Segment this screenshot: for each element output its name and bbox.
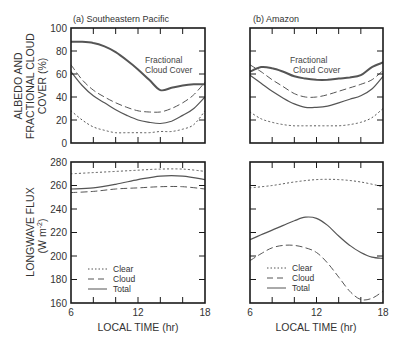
x-tick-label: 12 [132, 307, 144, 318]
panel-b-title: (b) Amazon [253, 14, 299, 24]
annotation-a-line1: Fractional [145, 55, 182, 65]
annotation-a: Fractional Cloud Cover [145, 55, 192, 75]
x-tick-label: 12 [311, 307, 323, 318]
series-total [71, 72, 205, 124]
top-ylabel-line2: FRACTIONAL CLOUD [24, 33, 36, 139]
panel-a-albedo: 020406080100 [50, 23, 205, 149]
x-tick-label: 6 [68, 307, 74, 318]
series-cloud [71, 186, 205, 192]
plot-frame [250, 162, 383, 303]
y-tick-label: 280 [50, 157, 67, 168]
series-clear [250, 109, 383, 126]
legend-total-label: Total [292, 283, 310, 293]
series-clear [250, 179, 383, 188]
y-tick-label: 160 [50, 298, 67, 309]
panel-a-title: (a) Southeastern Pacific [73, 14, 170, 24]
bottom-ylabel-line2: (W m-2) [36, 219, 48, 254]
top-ylabel-line3: COVER (%) [36, 58, 48, 115]
legend-clear-label: Clear [113, 264, 133, 274]
y-tick-label: 20 [56, 115, 68, 126]
legend-cloud-label: Cloud [292, 273, 314, 283]
panel-b-albedo [250, 28, 383, 143]
y-tick-label: 80 [56, 46, 68, 57]
top-ylabel-line1: ALBEDO AND [12, 52, 24, 120]
bottom-ylabel-line1: LONGWAVE FLUX [24, 187, 36, 276]
y-tick-label: 260 [50, 180, 67, 191]
x-tick-label: 18 [377, 307, 389, 318]
plot-frame [71, 162, 205, 303]
y-tick-label: 100 [50, 23, 67, 34]
series-clear [71, 169, 205, 174]
annotation-a-line2: Cloud Cover [145, 65, 192, 75]
x-axis-title-b: LOCAL TIME (hr) [275, 321, 356, 333]
annotation-b-line1: Fractional [290, 55, 327, 65]
y-tick-label: 0 [61, 138, 67, 149]
legend-a: Clear Cloud Total [88, 264, 135, 294]
y-tick-label: 60 [56, 69, 68, 80]
y-tick-label: 240 [50, 204, 67, 215]
plot-frame [250, 28, 383, 143]
panel-b-longwave: 61218 [247, 162, 389, 318]
bottom-y-axis-title: LONGWAVE FLUX (W m-2) [24, 187, 48, 276]
annotation-b-line2: Cloud Cover [293, 65, 340, 75]
y-tick-label: 200 [50, 251, 67, 262]
x-axis-title-a: LOCAL TIME (hr) [97, 321, 178, 333]
legend-clear-label: Clear [292, 263, 312, 273]
top-y-axis-title: ALBEDO AND FRACTIONAL CLOUD COVER (%) [12, 33, 48, 139]
legend-cloud-label: Cloud [113, 274, 135, 284]
figure: (a) Southeastern Pacific (b) Amazon ALBE… [0, 0, 401, 351]
y-tick-label: 220 [50, 227, 67, 238]
legend-total-label: Total [113, 284, 131, 294]
y-tick-label: 40 [56, 92, 68, 103]
y-tick-label: 180 [50, 274, 67, 285]
legend-b: Clear Cloud Total [267, 263, 314, 293]
x-tick-label: 6 [247, 307, 253, 318]
x-tick-label: 18 [199, 307, 211, 318]
annotation-b: Fractional Cloud Cover [290, 55, 340, 75]
